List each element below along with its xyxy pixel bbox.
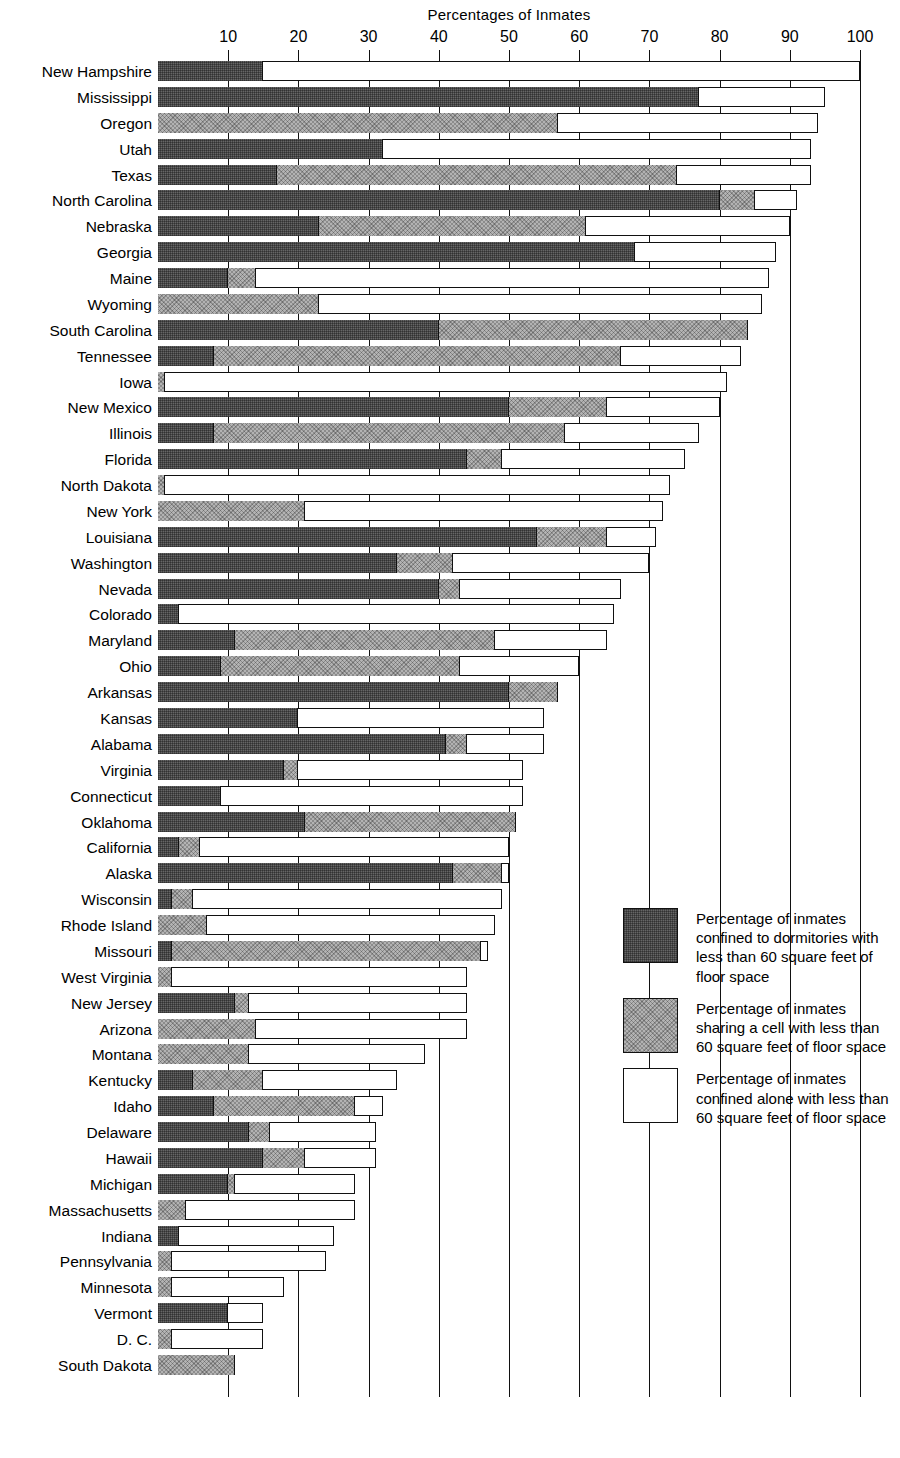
legend-item: Percentage of inmates confined to dormit…	[623, 908, 893, 986]
bar-segment-dormitory	[158, 61, 263, 81]
bar-segment-dormitory	[158, 423, 214, 443]
bar-row	[158, 475, 670, 495]
bar-segment-alone	[158, 61, 860, 81]
bar-segment-dormitory	[158, 1070, 193, 1090]
bar-segment-dormitory	[158, 190, 720, 210]
bar-row	[158, 708, 544, 728]
bar-segment-dormitory	[158, 734, 446, 754]
bar-row	[158, 993, 467, 1013]
bar-row	[158, 1329, 263, 1349]
bar-row	[158, 268, 769, 288]
bar-segment-dormitory	[158, 527, 537, 547]
legend-label: Percentage of inmates confined to dormit…	[696, 908, 893, 986]
bar-segment-dormitory	[158, 941, 172, 961]
bar-row	[158, 579, 621, 599]
bar-segment-dormitory	[158, 1122, 249, 1142]
bar-segment-shared-cell	[158, 346, 621, 366]
bar-row	[158, 216, 790, 236]
bar-row	[158, 423, 699, 443]
bar-row	[158, 1122, 376, 1142]
legend-item: Percentage of inmates sharing a cell wit…	[623, 998, 893, 1057]
legend-label: Percentage of inmates confined alone wit…	[696, 1068, 893, 1127]
bar-row	[158, 682, 558, 702]
bar-segment-dormitory	[158, 579, 439, 599]
bar-segment-dormitory	[158, 346, 214, 366]
bar-row	[158, 1148, 376, 1168]
bar-row	[158, 812, 516, 832]
bar-row	[158, 1174, 355, 1194]
bar-segment-alone	[158, 1277, 284, 1297]
bar-row	[158, 1070, 397, 1090]
bar-row	[158, 656, 579, 676]
bar-segment-dormitory	[158, 553, 397, 573]
bar-segment-alone	[158, 967, 467, 987]
bar-segment-dormitory	[158, 87, 699, 107]
bar-row	[158, 760, 523, 780]
bar-segment-dormitory	[158, 1148, 263, 1168]
bar-row	[158, 967, 467, 987]
bar-segment-dormitory	[158, 1174, 228, 1194]
bar-segment-dormitory	[158, 1226, 179, 1246]
bar-row	[158, 320, 748, 340]
bar-segment-dormitory	[158, 993, 235, 1013]
bar-row	[158, 165, 811, 185]
bar-row	[158, 501, 663, 521]
bar-segment-alone	[158, 372, 727, 392]
bar-segment-dormitory	[158, 165, 277, 185]
bar-segment-dormitory	[158, 630, 235, 650]
bar-segment-alone	[158, 1200, 355, 1220]
bar-segment-alone	[158, 915, 495, 935]
bar-row	[158, 1019, 467, 1039]
bar-row	[158, 87, 825, 107]
bar-segment-shared-cell	[158, 1277, 172, 1297]
bar-row	[158, 1303, 263, 1323]
bar-segment-dormitory	[158, 786, 221, 806]
bar-row	[158, 113, 818, 133]
bar-segment-shared-cell	[158, 915, 207, 935]
bar-segment-shared-cell	[158, 501, 305, 521]
bar-segment-alone	[158, 837, 509, 857]
bar-chart: Percentages of Inmates 10203040506070809…	[0, 0, 900, 1458]
bar-row	[158, 889, 502, 909]
bar-segment-dormitory	[158, 1303, 228, 1323]
legend-label: Percentage of inmates sharing a cell wit…	[696, 998, 893, 1057]
bar-segment-alone	[158, 1251, 326, 1271]
bar-row	[158, 837, 509, 857]
bar-segment-dormitory	[158, 708, 298, 728]
bar-row	[158, 1251, 326, 1271]
bar-row	[158, 863, 509, 883]
legend-swatch-mid	[623, 998, 678, 1053]
bar-segment-shared-cell	[158, 372, 165, 392]
bar-row	[158, 630, 607, 650]
bar-segment-dormitory	[158, 656, 221, 676]
bar-segment-shared-cell	[158, 967, 172, 987]
bar-row	[158, 242, 776, 262]
bar-segment-shared-cell	[158, 423, 565, 443]
bar-row	[158, 1044, 425, 1064]
bar-segment-shared-cell	[158, 1251, 172, 1271]
bar-row	[158, 941, 488, 961]
bar-segment-shared-cell	[158, 1355, 235, 1375]
bar-segment-dormitory	[158, 889, 172, 909]
bar-row	[158, 734, 544, 754]
bar-segment-dormitory	[158, 397, 509, 417]
bar-row	[158, 449, 685, 469]
bar-segment-shared-cell	[158, 941, 481, 961]
bar-segment-dormitory	[158, 760, 284, 780]
bar-segment-dormitory	[158, 320, 439, 340]
bar-segment-dormitory	[158, 449, 467, 469]
bar-row	[158, 1226, 334, 1246]
bars-container	[0, 0, 900, 1458]
bar-segment-dormitory	[158, 863, 453, 883]
bar-row	[158, 1355, 235, 1375]
bar-segment-alone	[158, 1226, 334, 1246]
bar-row	[158, 190, 797, 210]
bar-segment-dormitory	[158, 682, 509, 702]
bar-segment-dormitory	[158, 242, 635, 262]
bar-segment-shared-cell	[158, 294, 319, 314]
bar-segment-shared-cell	[158, 1044, 249, 1064]
legend-swatch-dark	[623, 908, 678, 963]
bar-segment-dormitory	[158, 604, 179, 624]
bar-segment-dormitory	[158, 268, 228, 288]
bar-segment-dormitory	[158, 1096, 214, 1116]
